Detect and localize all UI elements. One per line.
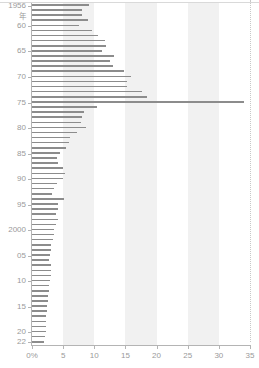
bar-2017 — [32, 315, 46, 317]
bar-1992 — [32, 188, 54, 190]
shaded-band-15-20 — [125, 3, 156, 345]
y-tick-1980 — [28, 128, 32, 129]
bar-2008 — [32, 270, 51, 272]
y-tick-1956 — [28, 6, 32, 7]
bar-1985 — [32, 152, 60, 154]
y-tick-2000 — [28, 230, 32, 231]
bar-1987 — [32, 162, 58, 164]
bar-1979 — [32, 122, 81, 124]
bar-1969 — [32, 70, 124, 72]
bar-1962 — [32, 35, 98, 37]
y-tick-1960 — [28, 26, 32, 27]
bar-1998 — [32, 219, 58, 221]
bar-1976 — [32, 106, 97, 108]
y-axis-unit-label: 年 — [0, 10, 26, 21]
bar-2013 — [32, 295, 48, 297]
bar-2003 — [32, 244, 51, 246]
bar-1965 — [32, 50, 102, 52]
bar-2002 — [32, 239, 53, 241]
bar-1991 — [32, 183, 57, 185]
x-tick-label-20: 20 — [152, 351, 161, 360]
bar-1966 — [32, 55, 114, 57]
y-tick-label-2000: 2000 — [0, 225, 26, 234]
bar-1993 — [32, 193, 52, 195]
bar-1986 — [32, 157, 57, 159]
y-tick-2010 — [28, 281, 32, 282]
bar-1990 — [32, 178, 63, 180]
bar-1970 — [32, 76, 131, 78]
bar-1978 — [32, 116, 82, 118]
x-tick-label-25: 25 — [183, 351, 192, 360]
y-tick-label-1956: 1956 — [0, 1, 26, 10]
bar-2004 — [32, 249, 51, 251]
bar-1994 — [32, 198, 64, 200]
bar-2009 — [32, 275, 51, 277]
bar-1995 — [32, 203, 58, 205]
x-tick-10 — [94, 345, 95, 349]
x-tick-label-5: 5 — [61, 351, 65, 360]
y-tick-label-80: 80 — [0, 123, 26, 132]
y-tick-1975 — [28, 103, 32, 104]
y-tick-label-20: 20 — [0, 327, 26, 336]
bar-1996 — [32, 208, 58, 210]
x-tick-label-35: 35 — [246, 351, 255, 360]
bar-2005 — [32, 254, 50, 256]
y-tick-label-10: 10 — [0, 276, 26, 285]
y-tick-label-75: 75 — [0, 98, 26, 107]
y-tick-label-65: 65 — [0, 46, 26, 55]
bar-2020 — [32, 331, 46, 333]
bar-1973 — [32, 91, 142, 93]
bar-1959 — [32, 19, 88, 21]
y-axis-line — [31, 3, 32, 346]
y-tick-label-70: 70 — [0, 72, 26, 81]
y-tick-2022 — [28, 342, 32, 343]
bar-1957 — [32, 9, 82, 11]
chart-root: 0%5101520253035 1956年6065707580859095200… — [0, 0, 259, 368]
bar-1956 — [32, 4, 89, 6]
y-tick-label-60: 60 — [0, 21, 26, 30]
bar-2000 — [32, 229, 54, 231]
x-tick-label-30: 30 — [214, 351, 223, 360]
bar-1977 — [32, 111, 84, 113]
x-tick-20 — [157, 345, 158, 349]
bar-2016 — [32, 310, 47, 312]
x-tick-0 — [32, 345, 33, 349]
bar-2022 — [32, 341, 44, 343]
bar-1983 — [32, 142, 69, 144]
x-tick-15 — [125, 345, 126, 349]
bar-1961 — [32, 30, 92, 32]
bar-2010 — [32, 280, 50, 282]
bar-2019 — [32, 326, 46, 328]
y-tick-label-90: 90 — [0, 174, 26, 183]
bar-1999 — [32, 224, 56, 226]
y-tick-1965 — [28, 51, 32, 52]
bar-2014 — [32, 300, 48, 302]
bar-1989 — [32, 173, 65, 175]
bar-1963 — [32, 40, 105, 42]
bar-1958 — [32, 14, 82, 16]
bar-1974 — [32, 96, 147, 98]
x-tick-30 — [219, 345, 220, 349]
bar-1960 — [32, 25, 79, 27]
bar-1975 — [32, 101, 244, 103]
y-tick-label-85: 85 — [0, 149, 26, 158]
bar-2011 — [32, 285, 49, 287]
bar-2015 — [32, 305, 47, 307]
y-tick-2005 — [28, 256, 32, 257]
x-tick-25 — [188, 345, 189, 349]
y-tick-1985 — [28, 154, 32, 155]
y-tick-label-05: 05 — [0, 251, 26, 260]
shaded-band-25-30 — [188, 3, 219, 345]
bar-1984 — [32, 147, 66, 149]
bar-1967 — [32, 60, 110, 62]
y-tick-1995 — [28, 205, 32, 206]
y-tick-label-15: 15 — [0, 302, 26, 311]
bar-2007 — [32, 264, 51, 266]
bar-1997 — [32, 213, 56, 215]
y-tick-label-95: 95 — [0, 200, 26, 209]
bar-2006 — [32, 259, 49, 261]
y-tick-1990 — [28, 179, 32, 180]
bar-2021 — [32, 336, 45, 338]
x-tick-label-15: 15 — [121, 351, 130, 360]
bar-1968 — [32, 65, 113, 67]
